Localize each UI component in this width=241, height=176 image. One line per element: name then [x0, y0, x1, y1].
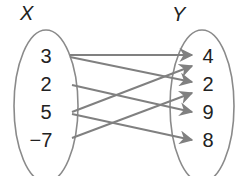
domain-value-3: 3	[40, 45, 51, 67]
domain-value-2: 2	[40, 73, 51, 95]
range-value-2: 2	[202, 73, 213, 95]
domain-value-5: 5	[40, 101, 51, 123]
range-value-9: 9	[202, 101, 213, 123]
range-value-8: 8	[202, 129, 213, 151]
domain-value-neg7: −7	[30, 129, 53, 151]
mapping-diagram: X Y 3 2 5 −7 4 2 9 8	[0, 0, 241, 176]
arrow-5-to-8	[72, 114, 192, 140]
arrow-neg7-to-2	[72, 93, 192, 138]
range-value-4: 4	[202, 45, 213, 67]
range-label: Y	[172, 3, 187, 25]
domain-label: X	[19, 2, 34, 24]
